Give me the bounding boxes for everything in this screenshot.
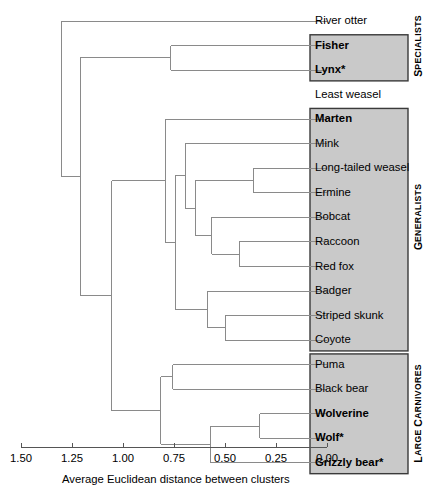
dendrogram-links: [62, 21, 327, 463]
axis-tick-label-4: 0.50: [203, 452, 247, 464]
leaf-label-wolverine: Wolverine: [315, 408, 369, 419]
leaf-label-puma: Puma: [315, 359, 345, 370]
group-label-specialists: SPECIALISTS: [412, 9, 424, 83]
axis-tick-label-0: 1.50: [0, 452, 43, 464]
leaf-label-mink: Mink: [315, 138, 339, 149]
axis-tick-label-3: 0.75: [152, 452, 196, 464]
leaf-label-fisher: Fisher: [315, 40, 349, 51]
leaf-label-raccoon: Raccoon: [315, 236, 360, 247]
leaf-label-marten: Marten: [315, 113, 352, 124]
leaf-label-ermine: Ermine: [315, 187, 351, 198]
dendrogram-figure: River otterFisherLynx*Least weaselMarten…: [0, 0, 437, 487]
axis-tick-label-2: 1.00: [101, 452, 145, 464]
group-label-generalists: GENERALISTS: [412, 82, 424, 352]
leaf-label-wolf: Wolf*: [315, 432, 344, 443]
leaf-label-river-otter: River otter: [315, 15, 367, 26]
axis-tick-label-5: 0.25: [254, 452, 298, 464]
leaf-label-long-tailed-weasel: Long-tailed weasel: [315, 162, 409, 173]
leaf-label-lynx: Lynx*: [315, 64, 345, 75]
group-label-large-carnivores: LARGE CARNIVORES: [412, 352, 424, 475]
leaf-label-badger: Badger: [315, 285, 351, 296]
leaf-label-red-fox: Red fox: [315, 261, 354, 272]
leaf-label-bobcat: Bobcat: [315, 211, 350, 222]
axis-tick-label-6: 0.00: [305, 452, 349, 464]
leaf-label-least-weasel: Least weasel: [315, 89, 381, 100]
axis-title: Average Euclidean distance between clust…: [62, 473, 290, 485]
dendrogram-canvas: [0, 0, 437, 487]
leaf-label-striped-skunk: Striped skunk: [315, 310, 383, 321]
leaf-label-coyote: Coyote: [315, 334, 351, 345]
leaf-label-black-bear: Black bear: [315, 383, 368, 394]
axis-tick-label-1: 1.25: [50, 452, 94, 464]
axis: [21, 443, 327, 447]
